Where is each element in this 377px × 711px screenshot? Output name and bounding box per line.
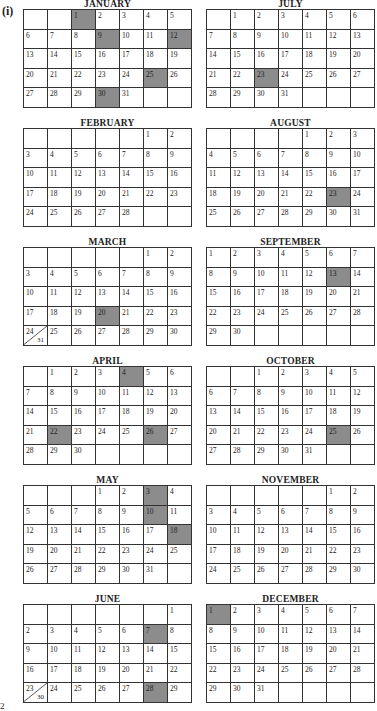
day-number: 29 [74,89,82,98]
day-number: 23 [353,546,361,555]
day-number: 9 [257,31,261,40]
day-number: 4 [74,626,78,635]
empty-cell [168,445,192,465]
month-title: NOVEMBER [206,476,375,485]
day-cell: 2 [327,129,351,149]
day-number: 25 [209,208,217,217]
day-cell: 26 [255,564,279,584]
day-number: 13 [209,407,217,416]
month-title: JUNE [23,595,192,604]
day-cell-highlighted: 1 [72,10,96,30]
day-number: 20 [98,189,106,198]
day-cell: 8 [96,505,120,525]
day-number: 5 [146,368,150,377]
day-cell: 4 [48,267,72,287]
day-number: 24 [353,189,361,198]
day-cell: 25 [48,207,72,227]
day-cell: 30 [168,326,192,346]
empty-cell [24,129,48,149]
day-number: 31 [305,446,313,455]
day-number: 15 [170,645,178,654]
day-cell: 24 [303,425,327,445]
day-number: 26 [146,427,154,436]
day-number: 10 [98,388,106,397]
day-cell: 28 [48,88,72,108]
day-number: 30 [170,327,178,336]
day-cell: 7 [351,248,375,268]
day-number: 26 [305,308,313,317]
day-cell: 7 [48,29,72,49]
day-cell: 29 [72,88,96,108]
day-cell: 27 [120,683,144,703]
day-cell: 13 [207,406,231,426]
empty-cell [96,129,120,149]
day-cell: 15 [72,49,96,69]
day-number: 20 [329,645,337,654]
day-number: 4 [281,606,285,615]
day-number: 19 [74,308,82,317]
day-cell: 25 [279,663,303,683]
month-title: JANUARY [23,0,192,9]
day-number: 18 [209,189,217,198]
empty-cell [207,486,231,506]
day-number: 15 [209,288,217,297]
day-cell: 17 [120,49,144,69]
day-cell: 24 [24,207,48,227]
day-number: 15 [146,288,154,297]
day-cell: 29 [207,683,231,703]
day-cell: 12 [231,168,255,188]
day-number: 8 [98,507,102,516]
empty-cell [48,10,72,30]
day-cell-highlighted: 28 [144,683,168,703]
day-number: 16 [170,288,178,297]
empty-cell [279,129,303,149]
day-number: 6 [98,269,102,278]
corner-mark: 2 [0,701,5,711]
day-number: 24 [50,684,58,693]
day-cell: 20 [24,68,48,88]
day-cell-highlighted: 20 [96,306,120,326]
day-cell: 10 [120,29,144,49]
day-number: 16 [329,169,337,178]
day-number: 29 [50,446,58,455]
day-number: 8 [146,269,150,278]
day-cell: 11 [279,624,303,644]
day-number: 30 [98,89,106,98]
day-cell: 15 [96,525,120,545]
month-april: APRIL12345678910111213141516171819202122… [23,357,192,465]
day-number: 28 [353,665,361,674]
day-cell: 6 [24,29,48,49]
day-cell: 20 [48,544,72,564]
day-number: 1 [146,249,150,258]
day-cell: 29 [303,207,327,227]
day-cell: 4 [279,605,303,625]
day-cell: 31 [351,207,375,227]
day-cell: 23 [168,306,192,326]
day-cell: 31 [120,88,144,108]
day-number: 20 [122,665,130,674]
day-cell: 24 [48,683,72,703]
day-cell: 26 [351,425,375,445]
day-cell: 9 [279,386,303,406]
day-number: 21 [74,546,82,555]
day-cell-highlighted: 30 [96,88,120,108]
day-cell: 20 [351,49,375,69]
day-cell: 25 [303,68,327,88]
empty-cell [351,683,375,703]
day-number: 4 [233,507,237,516]
day-cell: 2 [120,486,144,506]
day-cell: 13 [327,624,351,644]
day-number: 18 [122,407,130,416]
day-cell: 12 [24,525,48,545]
day-number: 11 [122,388,129,397]
day-number: 26 [74,327,82,336]
day-cell: 25 [48,326,72,346]
day-cell: 7 [279,148,303,168]
day-cell: 5 [72,267,96,287]
day-number: 2 [122,487,126,496]
day-cell: 16 [96,49,120,69]
day-number: 4 [209,150,213,159]
day-cell: 16 [327,168,351,188]
day-cell: 15 [303,168,327,188]
day-number: 14 [74,526,82,535]
